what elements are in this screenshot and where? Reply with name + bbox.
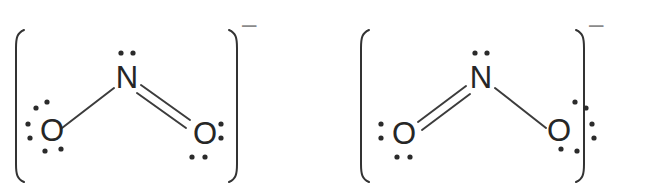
bond-double-oleft-n-line-2 (422, 94, 470, 130)
bracket-left-icon (16, 30, 24, 182)
atom-label-oxygen-right: O (185, 118, 225, 149)
resonance-structure-2: N O O – (323, 0, 647, 193)
bond-double-n-oright-line-1 (141, 85, 190, 120)
resonance-structure-1: N O O – (0, 0, 324, 193)
bond-double-oleft-n-line-1 (418, 86, 466, 122)
atom-label-nitrogen: N (107, 62, 147, 93)
bond-double-n-oright-line-2 (137, 93, 186, 128)
structure-1-graphics (0, 0, 324, 193)
lone-pair-nitrogen (118, 50, 135, 55)
lewis-structure-diagram: N O O – (0, 0, 647, 193)
atom-label-nitrogen: N (461, 62, 501, 93)
atom-label-oxygen-right: O (539, 115, 579, 146)
bracket-left-icon (361, 30, 369, 182)
atom-label-oxygen-left: O (384, 118, 424, 149)
bracket-right-icon (229, 30, 237, 182)
lone-pair-nitrogen (472, 50, 489, 55)
charge-label: – (242, 11, 256, 37)
atom-label-oxygen-left: O (32, 115, 72, 146)
bracket-right-icon (576, 30, 584, 182)
charge-label: – (589, 11, 603, 37)
